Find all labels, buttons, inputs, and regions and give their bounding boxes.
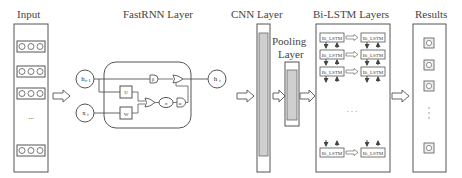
pooling-block — [285, 62, 299, 126]
svg-text:Bi_LSTM: Bi_LSTM — [363, 151, 384, 156]
input-block: ... — [14, 24, 48, 172]
svg-text:Bi_LSTM: Bi_LSTM — [363, 53, 384, 58]
flow-arrow-icon — [273, 90, 285, 102]
flow-arrow-icon — [300, 90, 315, 102]
flow-arrow-icon — [237, 90, 254, 102]
input-vector-1 — [17, 41, 45, 52]
svg-text:α: α — [179, 101, 182, 106]
svg-text:Bi_LSTM: Bi_LSTM — [322, 151, 343, 156]
svg-text:W: W — [124, 112, 129, 117]
input-vector-n — [17, 145, 45, 156]
svg-text:h: h — [214, 75, 218, 83]
svg-text:Bi_LSTM: Bi_LSTM — [363, 36, 384, 41]
svg-text:t-1: t-1 — [85, 78, 91, 83]
input-vector-2 — [17, 66, 45, 77]
svg-text:Bi_LSTM: Bi_LSTM — [363, 70, 384, 75]
svg-text:Bi_LSTM: Bi_LSTM — [322, 53, 343, 58]
results-block — [413, 24, 446, 172]
svg-text:x: x — [82, 109, 86, 117]
svg-text:· · ·: · · · — [347, 108, 358, 116]
flow-arrow-icon — [392, 90, 409, 102]
cnn-block — [257, 24, 270, 172]
svg-text:β: β — [152, 77, 155, 82]
svg-text:Bi_LSTM: Bi_LSTM — [322, 70, 343, 75]
architecture-diagram: ... h t-1 x t U W — [0, 0, 462, 178]
svg-text:U: U — [124, 90, 128, 95]
input-vector-3 — [17, 88, 45, 99]
fastrnn-block: h t-1 x t U W σ α β — [76, 62, 226, 128]
svg-text:...: ... — [28, 113, 34, 121]
svg-text:σ: σ — [165, 101, 168, 106]
svg-text:Bi_LSTM: Bi_LSTM — [322, 36, 343, 41]
flow-arrow-icon — [53, 90, 70, 102]
bilstm-block: Bi_LSTM Bi_LSTM Bi_LSTM Bi_LSTM Bi_LSTM … — [316, 24, 390, 172]
